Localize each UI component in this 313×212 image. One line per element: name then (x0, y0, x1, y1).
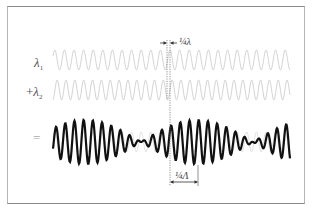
label-lambda-1: λ1 (34, 55, 43, 72)
wave-diagram (0, 0, 313, 212)
label-plus-lambda-2: +λ2 (26, 84, 42, 101)
annotation-beat-quarter: ¼Λ (175, 170, 189, 181)
annotation-phase-shift: ¼λ (179, 36, 191, 47)
label-equals: = (33, 130, 40, 146)
wave-1-curve (53, 50, 290, 70)
wave-2-curve (53, 80, 290, 100)
phase-shift-arrows (160, 41, 177, 44)
sum-wave-curve (53, 120, 290, 164)
